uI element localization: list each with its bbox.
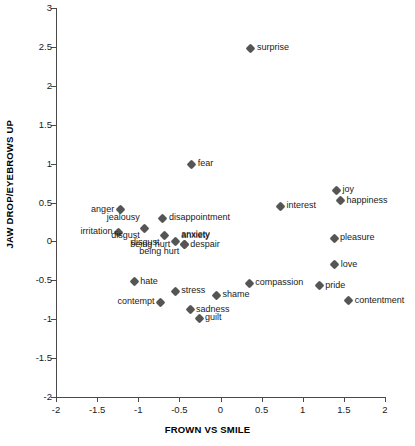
diamond-marker-icon [185,305,195,315]
point-label: stress [181,285,205,295]
x-tick-mark [138,397,139,402]
scatter-chart-figure: 32.521.510.50-0.5-1-1.5-2 -2-1.5-1-0.500… [0,0,415,446]
x-tick-label: 0 [218,404,223,416]
x-tick-label: 1 [300,404,305,416]
diamond-marker-icon [336,196,346,206]
point-label: shame [222,289,249,299]
diamond-marker-icon [158,213,168,223]
x-tick-mark [344,397,345,402]
y-tick-label: 1.5 [39,118,52,132]
point-label: jealousy [107,212,140,222]
point-label: fear [198,158,214,168]
point-label: pleasure [340,232,375,242]
x-tick-label: 2 [382,404,387,416]
diamond-marker-icon [129,277,139,287]
diamond-marker-icon [170,286,180,296]
x-tick-mark [56,397,57,402]
diamond-marker-icon [329,233,339,243]
y-tick-label: 2 [47,79,52,93]
y-tick-label: 2.5 [39,40,52,54]
diamond-marker-icon [332,185,342,195]
x-tick-label: 1.5 [337,404,350,416]
y-tick-label: -1.5 [36,351,52,365]
x-tick-mark [303,397,304,402]
point-label: love [341,259,358,269]
diamond-marker-icon [156,297,166,307]
x-tick-mark [179,397,180,402]
x-axis-title: FROWN VS SMILE [0,424,415,435]
point-label: irritation [80,226,112,236]
point-label: joy [342,184,354,194]
x-tick-mark [97,397,98,402]
x-tick-label: -0.5 [171,404,187,416]
point-label: disappointment [169,212,230,222]
point-label: interest [287,200,317,210]
x-tick-mark [385,397,386,402]
x-tick-label: 0.5 [255,404,268,416]
y-tick-label: -2 [44,390,52,404]
diamond-marker-icon [330,260,340,270]
y-tick-label: -0.5 [36,273,52,287]
y-tick-label: 0 [47,234,52,248]
x-tick-label: -2 [52,404,60,416]
diamond-marker-icon [211,290,221,300]
point-label: contentment [355,295,405,305]
x-tick-label: -1 [134,404,142,416]
point-label: despair [190,239,220,249]
y-tick-label: 0.5 [39,196,52,210]
y-tick-label: -1 [44,312,52,326]
plot-area: 32.521.510.50-0.5-1-1.5-2 -2-1.5-1-0.500… [56,8,385,397]
diamond-marker-icon [314,281,324,291]
x-tick-mark [262,397,263,402]
point-label: hate [140,276,158,286]
y-tick-label: 3 [47,1,52,15]
y-axis-title: JAW DROP/EYEBROWS UP [4,120,15,249]
point-label: contempt [117,296,154,306]
diamond-marker-icon [179,240,189,250]
x-tick-mark [221,397,222,402]
point-label: surprise [257,42,289,52]
diamond-marker-icon [276,201,286,211]
point-label: anxiety [181,230,210,240]
y-tick-label: 1 [47,157,52,171]
point-label: pride [325,280,345,290]
point-label: compassion [255,277,303,287]
point-label: guilt [205,312,222,322]
diamond-marker-icon [246,44,256,54]
point-label: being hurt [130,239,170,249]
diamond-marker-icon [194,313,204,323]
diamond-marker-icon [244,278,254,288]
diamond-marker-icon [344,296,354,306]
point-label: happiness [347,195,388,205]
diamond-marker-icon [140,223,150,233]
x-tick-label: -1.5 [89,404,105,416]
diamond-marker-icon [187,159,197,169]
